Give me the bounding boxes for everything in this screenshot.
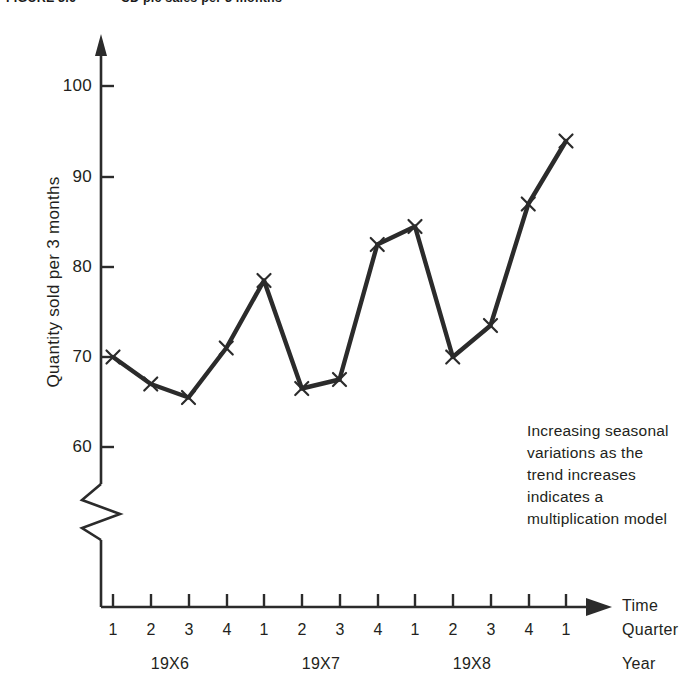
year-label-19x6: 19X6 [130, 655, 210, 673]
data-point-marker [220, 342, 233, 355]
data-point-marker [560, 135, 573, 148]
x-tick-label-q3: 3 [177, 621, 201, 639]
chart-plot-area: Quantity sold per 3 months 100 90 80 70 … [0, 0, 698, 695]
x-axis [101, 598, 612, 616]
y-tick-marks [101, 86, 114, 447]
annotation-line-1: Increasing seasonal [527, 420, 669, 442]
annotation-line-2: variations as the [527, 442, 669, 464]
x-axis-caption-quarter: Quarter [622, 621, 678, 639]
x-tick-label-q11: 3 [479, 621, 503, 639]
x-tick-label-q1: 1 [101, 621, 125, 639]
annotation-line-5: multiplication model [527, 508, 669, 530]
data-point-markers [107, 135, 573, 405]
annotation-line-3: trend increases [527, 464, 669, 486]
x-tick-label-q8: 4 [366, 621, 390, 639]
y-axis [82, 34, 120, 607]
x-tick-label-q4: 4 [215, 621, 239, 639]
x-tick-label-q9: 1 [403, 621, 427, 639]
chart-svg [0, 0, 698, 695]
year-label-19x7: 19X7 [281, 655, 361, 673]
data-series-line [113, 141, 566, 398]
x-tick-label-q5: 1 [252, 621, 276, 639]
x-tick-label-q12: 4 [517, 621, 541, 639]
x-axis-arrow-icon [586, 598, 612, 616]
x-tick-label-q10: 2 [441, 621, 465, 639]
y-axis-arrow-icon [95, 34, 107, 56]
x-tick-label-q6: 2 [290, 621, 314, 639]
x-tick-label-q2: 2 [139, 621, 163, 639]
year-label-19x8: 19X8 [432, 655, 512, 673]
annotation-line-4: indicates a [527, 486, 669, 508]
x-tick-label-q13: 1 [554, 621, 578, 639]
x-axis-caption-year: Year [622, 655, 656, 673]
x-axis-caption-time: Time [622, 597, 658, 615]
x-tick-marks [113, 594, 566, 607]
x-tick-label-q7: 3 [328, 621, 352, 639]
axis-break-icon [82, 484, 120, 540]
chart-annotation: Increasing seasonal variations as the tr… [527, 420, 669, 530]
